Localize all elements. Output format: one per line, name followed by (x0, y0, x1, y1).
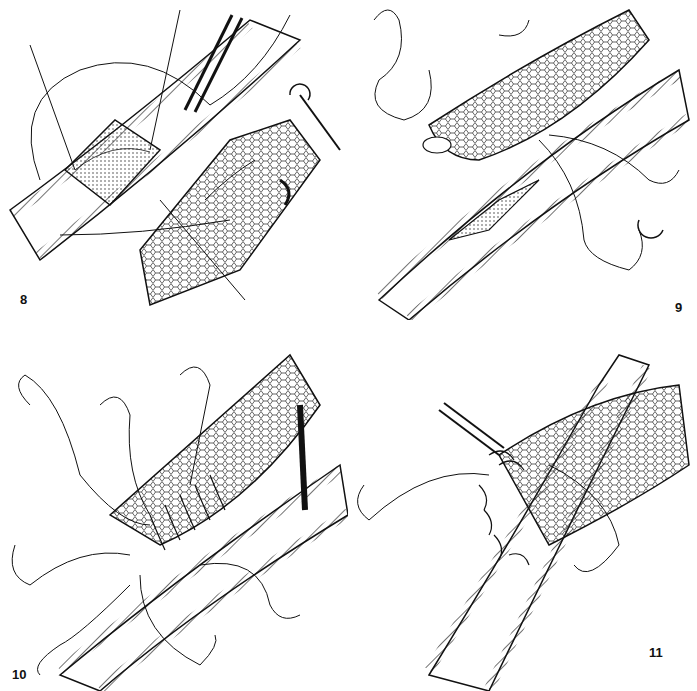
panel-11: 11 (349, 345, 697, 691)
panel-9-label: 9 (675, 300, 682, 315)
panel-11-illustration (349, 345, 697, 691)
panel-9-illustration (349, 0, 697, 320)
panel-10-label: 10 (12, 667, 26, 682)
panel-8: 8 (0, 0, 348, 320)
panel-9: 9 (349, 0, 697, 320)
panel-11-label: 11 (649, 645, 663, 660)
panel-10: 10 (0, 345, 348, 691)
panel-8-illustration (0, 0, 348, 320)
panel-8-label: 8 (20, 292, 27, 307)
panel-10-illustration (0, 345, 348, 691)
